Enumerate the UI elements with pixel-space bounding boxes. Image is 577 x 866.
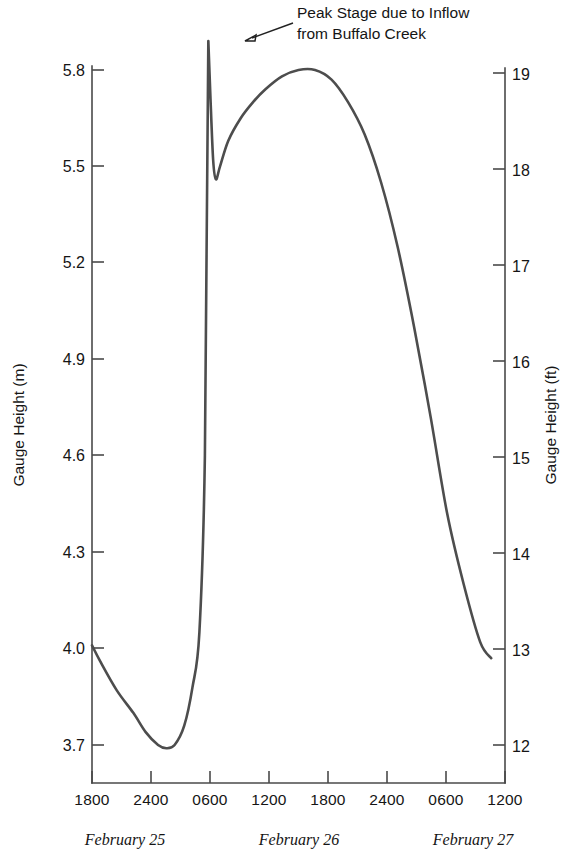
annotation-arrowhead-icon: [245, 35, 256, 41]
annotation-line-1: Peak Stage due to Inflow: [297, 4, 470, 21]
date-label-feb-25: February 25: [84, 831, 165, 849]
left-tick-label-0: 5.8: [63, 62, 85, 79]
annotation-leader-line: [252, 23, 293, 38]
left-tick-label-3: 4.9: [63, 351, 85, 368]
right-tick-label-0: 19: [512, 66, 530, 83]
right-tick-label-3: 16: [512, 354, 530, 371]
hydrograph-figure: 5.8 5.5 5.2 4.9 4.6 4.3 4.0 3.7 Gauge He…: [0, 0, 577, 866]
left-axis: 5.8 5.5 5.2 4.9 4.6 4.3 4.0 3.7 Gauge He…: [10, 62, 104, 783]
x-tick-label-1: 2400: [133, 791, 168, 808]
peak-stage-annotation: Peak Stage due to Inflow from Buffalo Cr…: [245, 4, 470, 42]
right-tick-label-4: 15: [512, 450, 530, 467]
right-axis-title: Gauge Height (ft): [542, 366, 559, 485]
x-axis: 1800 2400 0600 1200 1800 2400 0600 1200 …: [74, 771, 522, 849]
chart-canvas: 5.8 5.5 5.2 4.9 4.6 4.3 4.0 3.7 Gauge He…: [0, 0, 577, 866]
date-label-feb-26: February 26: [258, 831, 339, 849]
left-tick-label-1: 5.5: [63, 158, 85, 175]
right-tick-label-2: 17: [512, 258, 530, 275]
right-tick-label-1: 18: [512, 162, 530, 179]
left-tick-label-2: 5.2: [63, 254, 85, 271]
x-tick-label-7: 1200: [487, 791, 522, 808]
gauge-height-curve: [92, 41, 491, 748]
right-axis: 19 18 17 16 15 14 13 12 Gauge Height (ft…: [493, 66, 559, 783]
x-tick-label-5: 2400: [369, 791, 404, 808]
left-tick-label-6: 4.0: [63, 640, 85, 657]
x-tick-label-0: 1800: [74, 791, 109, 808]
date-label-feb-27: February 27: [432, 831, 514, 849]
left-tick-label-5: 4.3: [63, 544, 85, 561]
left-axis-title: Gauge Height (m): [10, 363, 27, 486]
data-series-group: [92, 41, 491, 748]
x-tick-label-4: 1800: [310, 791, 345, 808]
left-tick-label-4: 4.6: [63, 447, 85, 464]
x-tick-label-3: 1200: [251, 791, 286, 808]
annotation-line-2: from Buffalo Creek: [297, 25, 426, 42]
left-tick-label-7: 3.7: [63, 737, 85, 754]
right-tick-label-6: 13: [512, 642, 530, 659]
x-tick-label-6: 0600: [428, 791, 463, 808]
right-tick-label-5: 14: [512, 546, 530, 563]
x-tick-label-2: 0600: [192, 791, 227, 808]
right-tick-label-7: 12: [512, 738, 530, 755]
